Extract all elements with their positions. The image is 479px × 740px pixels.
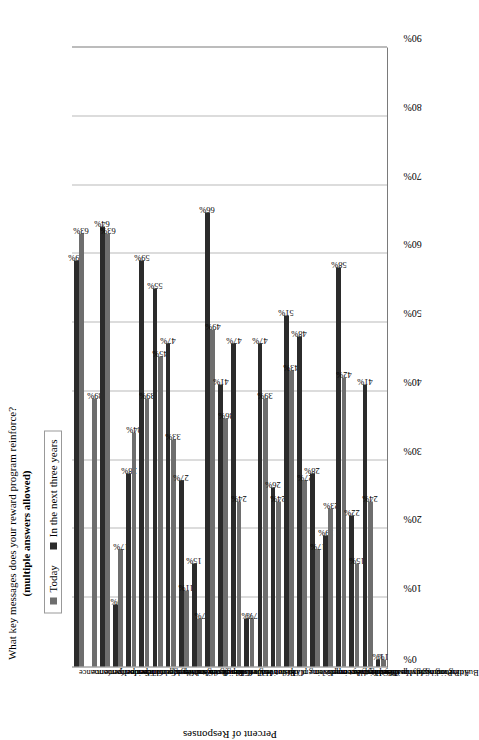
bar-today xyxy=(355,563,360,666)
bar-value-label: 22% xyxy=(344,507,360,517)
bar-future xyxy=(139,260,144,666)
chart-legend: Today In the next three years xyxy=(44,430,62,613)
bar-value-label: 41% xyxy=(357,376,373,386)
y-axis-tick: 0% xyxy=(404,654,417,665)
bar-today xyxy=(145,398,150,666)
bar-future xyxy=(297,336,302,666)
legend-swatch-today xyxy=(50,597,57,604)
bar-group: 64%63% xyxy=(98,47,111,666)
chart-title: What key messages does your reward progr… xyxy=(6,353,34,713)
bar-today xyxy=(276,501,281,666)
y-axis-tick: 60% xyxy=(404,239,422,250)
bar-group: 47%39% xyxy=(256,47,269,666)
bar-value-label: 1% xyxy=(378,651,389,661)
bar-future xyxy=(153,288,158,666)
y-axis-label: Percent of Responses xyxy=(182,728,276,740)
bar-today xyxy=(92,398,97,666)
bar-today xyxy=(184,590,189,666)
legend-swatch-future xyxy=(50,542,57,549)
bar-value-label: 27% xyxy=(173,472,189,482)
bar-value-label: 26% xyxy=(265,479,281,489)
bar-group: 51%43% xyxy=(282,47,295,666)
bar-value-label: 58% xyxy=(331,259,347,269)
bar-future xyxy=(100,226,105,666)
bar-value-label: 47% xyxy=(252,335,268,345)
bar-group: 9%17% xyxy=(111,47,124,666)
category-label: Other xyxy=(380,667,399,677)
chart-title-line2: (multiple answers allowed) xyxy=(20,353,34,713)
bar-group: 22%15% xyxy=(348,47,361,666)
bar-value-label: 47% xyxy=(160,335,176,345)
bar-value-label: 55% xyxy=(147,280,163,290)
bar-future xyxy=(349,515,354,666)
bar-group: 41%24% xyxy=(361,47,374,666)
bar-future xyxy=(166,343,171,666)
bar-value-label: 15% xyxy=(187,555,203,565)
plot-area: Percent of Responses 0%10%20%30%40%50%60… xyxy=(72,47,388,667)
bar-group: 28%17% xyxy=(308,47,321,666)
bar-today xyxy=(263,398,268,666)
y-axis-tick: 10% xyxy=(404,583,422,594)
bar-today xyxy=(289,370,294,666)
bar-future xyxy=(126,473,131,666)
bar-future xyxy=(271,487,276,666)
bar-future xyxy=(336,267,341,666)
bar-today xyxy=(105,233,110,666)
y-axis-tick: 70% xyxy=(404,170,422,181)
chart-title-line1: What key messages does your reward progr… xyxy=(6,353,20,713)
bar-group: 59%63% xyxy=(72,47,85,666)
bar-group: 39% xyxy=(85,47,98,666)
bar-today xyxy=(342,377,347,666)
bar-group: 1%1% xyxy=(374,47,387,666)
bar-future xyxy=(74,260,79,666)
bar-today xyxy=(118,549,123,666)
bar-today xyxy=(237,501,242,666)
bar-today xyxy=(302,480,307,666)
y-axis-tick: 40% xyxy=(404,376,422,387)
bar-group: 47%33% xyxy=(164,47,177,666)
y-axis-tick: 30% xyxy=(404,445,422,456)
legend-item-future: In the next three years xyxy=(47,439,59,549)
bar-value-label: 28% xyxy=(305,465,321,475)
legend-label-today: Today xyxy=(47,565,59,592)
bar-value-label: 66% xyxy=(200,204,216,214)
bar-future xyxy=(218,384,223,666)
bar-today xyxy=(328,508,333,666)
bar-today xyxy=(250,618,255,666)
bar-future xyxy=(179,480,184,666)
bar-today xyxy=(132,432,137,666)
bar-value-label: 41% xyxy=(213,376,229,386)
bar-today xyxy=(197,618,202,666)
bar-today xyxy=(315,549,320,666)
bar-value-label: 48% xyxy=(292,328,308,338)
bar-group: 59%39% xyxy=(138,47,151,666)
bar-future xyxy=(363,384,368,666)
bar-value-label: 47% xyxy=(226,335,242,345)
bar-value-label: 59% xyxy=(134,252,150,262)
bar-today xyxy=(223,418,228,666)
bar-group: 15%7% xyxy=(190,47,203,666)
y-axis-tick: 20% xyxy=(404,514,422,525)
bar-future xyxy=(310,473,315,666)
bar-today xyxy=(158,357,163,667)
bar-group: 58%42% xyxy=(335,47,348,666)
bar-group: 28%34% xyxy=(125,47,138,666)
bar-group: 48%27% xyxy=(295,47,308,666)
bar-group: 7%7% xyxy=(243,47,256,666)
bar-group: 47%24% xyxy=(230,47,243,666)
bar-future xyxy=(113,604,118,666)
bar-today xyxy=(368,501,373,666)
legend-label-future: In the next three years xyxy=(47,439,59,537)
bar-group: 26%24% xyxy=(269,47,282,666)
bar-future xyxy=(323,535,328,666)
bar-group: 55%45% xyxy=(151,47,164,666)
legend-item-today: Today xyxy=(47,565,59,604)
bar-group: 66%49% xyxy=(203,47,216,666)
bar-future xyxy=(231,343,236,666)
y-axis-tick: 50% xyxy=(404,307,422,318)
bar-future xyxy=(244,618,249,666)
bar-group: 41%36% xyxy=(216,47,229,666)
y-axis-tick: 90% xyxy=(404,32,422,43)
bar-group: 19%23% xyxy=(321,47,334,666)
